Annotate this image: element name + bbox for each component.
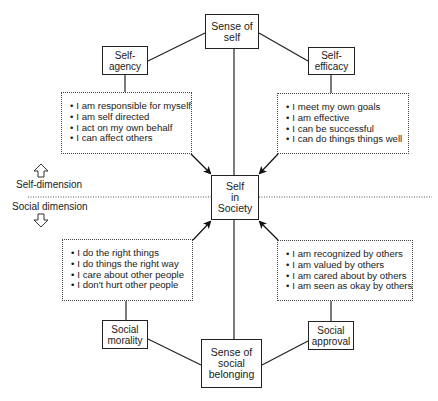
social-morality-statements: I do the right things I do things the ri… — [62, 239, 193, 301]
statement: I do things the right way — [71, 259, 192, 270]
sense-of-self-box: Sense of self — [205, 14, 259, 49]
social-morality-box: Social morality — [102, 320, 148, 349]
arrow-down-outline-icon — [34, 214, 48, 227]
statement: I can affect others — [70, 133, 191, 144]
self-efficacy-statements: I meet my own goals I am effective I can… — [277, 93, 409, 154]
statement: I can do things things well — [286, 134, 408, 145]
social-dimension-label: Social dimension — [12, 201, 88, 212]
sense-of-social-belonging-box: Sense of social belonging — [201, 339, 262, 388]
statement: I am self directed — [70, 112, 191, 123]
arrow-up-outline-icon — [34, 164, 48, 177]
self-dimension-label: Self-dimension — [16, 179, 82, 190]
self-efficacy-box: Self- efficacy — [308, 47, 355, 75]
statement: I am seen as okay by others — [286, 281, 412, 292]
statement: I am valued by others — [286, 260, 412, 271]
social-approval-box: Social approval — [308, 321, 354, 350]
statement: I am effective — [286, 113, 408, 124]
self-in-society-box: Self in Society — [211, 175, 259, 220]
statement: I don't hurt other people — [71, 280, 192, 291]
self-agency-statements: I am responsible for myself I am self di… — [61, 92, 192, 154]
self-agency-box: Self- agency — [102, 46, 148, 75]
social-approval-statements: I am recognized by others I am valued by… — [277, 240, 413, 301]
self-in-society-diagram: Sense of self Self in Society Sense of s… — [0, 0, 438, 401]
